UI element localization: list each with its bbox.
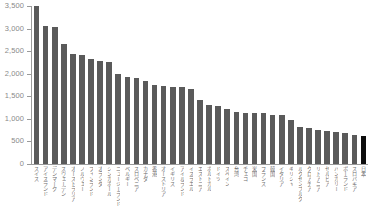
x-axis-tick-label: ポルトガル <box>206 166 211 216</box>
bar <box>270 115 276 164</box>
x-axis-tick-label: スウェーデン <box>61 166 66 216</box>
bar <box>197 100 203 164</box>
bar <box>52 27 58 164</box>
bar <box>306 128 312 164</box>
x-axis-tick-label: 韓国 <box>270 166 275 216</box>
bar <box>342 133 348 164</box>
x-axis-tick-label: エストニア <box>197 166 202 216</box>
x-axis-tick-label: イスラエル <box>188 166 193 216</box>
bar <box>88 59 94 164</box>
x-axis-tick-label: デンマーク <box>52 166 57 216</box>
bar <box>179 87 185 164</box>
x-axis-tick-label: スロバキア <box>351 166 356 216</box>
x-axis-tick-label: ポーランド <box>342 166 347 216</box>
y-axis-tick-label: 0 <box>0 160 24 168</box>
bar <box>243 113 249 164</box>
x-axis-tick-label: ハンガリー <box>333 166 338 216</box>
bar <box>143 81 149 164</box>
bar-chart: スイスアイスランドデンマークスウェーデンオーストラリアノルウェーフィンランドオラ… <box>0 0 372 217</box>
x-axis-tick-label: アイスランド <box>43 166 48 216</box>
bar <box>134 78 140 164</box>
x-axis-tick-label: ノルウェー <box>79 166 84 216</box>
x-axis-tick-label: アイルランド <box>179 166 184 216</box>
bar <box>252 113 258 164</box>
bar <box>361 136 367 164</box>
x-axis-tick-label: 米国 <box>251 166 256 216</box>
bar <box>161 86 167 164</box>
bar <box>152 85 158 164</box>
x-axis-tick-label: リトアニア <box>315 166 320 216</box>
x-axis-tick-label: ベルギー <box>124 166 129 216</box>
bar <box>324 131 330 164</box>
x-axis-tick-label: 台湾 <box>233 166 238 216</box>
y-axis-tick <box>27 74 31 75</box>
x-axis-tick-label: イタリア <box>279 166 284 216</box>
x-axis-tick-label: フランス <box>261 166 266 216</box>
x-axis-tick-label: ルクセンブルク <box>297 166 302 216</box>
x-axis-tick-label: 日本 <box>360 166 365 216</box>
bar <box>215 106 221 164</box>
x-axis-tick-label: スロベニア <box>133 166 138 216</box>
bar <box>70 54 76 164</box>
y-axis-tick <box>27 119 31 120</box>
y-axis-tick-label: 3,500 <box>0 2 24 10</box>
x-axis-tick-label: ドイツ <box>215 166 220 216</box>
x-axis-tick-label: オーストリア <box>161 166 166 216</box>
bar <box>34 6 40 164</box>
y-axis-tick <box>27 141 31 142</box>
x-axis-tick-label: スペイン <box>224 166 229 216</box>
bar <box>43 26 49 164</box>
bar <box>79 55 85 164</box>
bar-series <box>32 6 368 164</box>
bar <box>106 62 112 164</box>
bar <box>279 115 285 164</box>
bar <box>352 135 358 164</box>
x-axis-tick-label: オーストラリア <box>70 166 75 216</box>
bar <box>224 109 230 164</box>
bar <box>206 105 212 164</box>
x-axis-tick-label: 香港 <box>152 166 157 216</box>
x-axis-tick-label: ギリシャ <box>288 166 293 216</box>
bar <box>288 120 294 164</box>
bar <box>115 74 121 164</box>
bar <box>170 87 176 164</box>
bar <box>261 113 267 164</box>
bar <box>125 77 131 164</box>
bar <box>61 44 67 164</box>
x-axis-tick-label: カナダ <box>143 166 148 216</box>
x-axis-labels: スイスアイスランドデンマークスウェーデンオーストラリアノルウェーフィンランドオラ… <box>32 166 368 217</box>
x-axis-tick-label: チェコ <box>242 166 247 216</box>
x-axis-tick-label: イギリス <box>170 166 175 216</box>
y-axis-tick <box>27 29 31 30</box>
bar <box>297 127 303 164</box>
y-axis-tick <box>27 96 31 97</box>
y-axis-tick-label: 500 <box>0 137 24 145</box>
x-axis-tick-label: セルビア <box>324 166 329 216</box>
y-axis-tick-label: 3,000 <box>0 25 24 33</box>
y-axis-tick-label: 2,000 <box>0 70 24 78</box>
y-axis-tick <box>27 6 31 7</box>
y-axis-tick-label: 1,500 <box>0 92 24 100</box>
y-axis-tick-label: 2,500 <box>0 47 24 55</box>
x-axis-tick-label: クロアチア <box>306 166 311 216</box>
x-axis-tick-label: ニュージーランド <box>115 166 120 216</box>
x-axis-tick-label: オランダ <box>97 166 102 216</box>
bar <box>234 112 240 164</box>
x-axis-tick-label: フィンランド <box>88 166 93 216</box>
x-axis-tick-label: シンガポール <box>106 166 111 216</box>
x-axis-line <box>31 164 368 165</box>
y-axis-tick <box>27 51 31 52</box>
bar <box>315 130 321 164</box>
y-axis-tick <box>27 164 31 165</box>
bar <box>188 89 194 164</box>
bar <box>333 132 339 164</box>
x-axis-tick-label: スイス <box>34 166 39 216</box>
y-axis-tick-label: 1,000 <box>0 115 24 123</box>
bar <box>97 61 103 164</box>
